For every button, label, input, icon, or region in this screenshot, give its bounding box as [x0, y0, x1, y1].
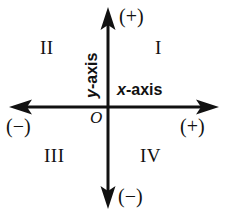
sign-label-positive-x: (+): [180, 116, 205, 136]
coordinate-plane-figure: I II III IV (+) (+) (−) (−) x-axis y-axi…: [0, 0, 229, 216]
axes-graphic: [0, 0, 229, 216]
y-axis-label-suffix: -axis: [83, 53, 100, 89]
y-axis-label-variable: y: [83, 89, 100, 98]
y-axis-label: y-axis: [84, 53, 100, 98]
sign-label-positive-y: (+): [119, 6, 144, 26]
quadrant-label-4: IV: [140, 146, 161, 165]
x-axis-label-suffix: -axis: [126, 81, 162, 98]
quadrant-label-2: II: [40, 38, 54, 57]
x-axis-label: x-axis: [117, 82, 162, 98]
sign-label-negative-x: (−): [6, 116, 31, 136]
origin-label: O: [90, 109, 102, 126]
sign-label-negative-y: (−): [118, 186, 143, 206]
x-axis-label-variable: x: [117, 81, 126, 98]
quadrant-label-3: III: [44, 146, 64, 165]
quadrant-label-1: I: [155, 38, 162, 57]
